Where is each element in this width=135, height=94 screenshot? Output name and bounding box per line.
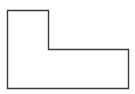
l-shaped-polygon [8,11,129,89]
diagram-canvas [0,0,135,94]
